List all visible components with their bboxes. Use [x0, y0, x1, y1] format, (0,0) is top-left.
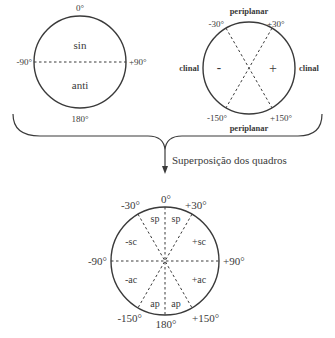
d3-angle-minus90: -90°: [88, 255, 107, 267]
region-sc-plus: +sc: [192, 236, 207, 247]
d3-angle-plus150: +150°: [192, 312, 219, 324]
d2-angle-plus30: +30°: [267, 19, 285, 29]
periplanar-clinal-diagram: periplanar periplanar clinal clinal - + …: [179, 6, 319, 133]
d3-angle-180: 180°: [156, 318, 177, 330]
combined-diagram: 0° -30° +30° -90° +90° -150° +150° 180° …: [88, 193, 245, 330]
region-sp-left: sp: [151, 213, 160, 224]
d1-angle-right: +90°: [129, 57, 147, 67]
plus-sign: +: [269, 61, 277, 76]
d2-angle-plus150: +150°: [270, 113, 293, 123]
periplanar-top-label: periplanar: [230, 6, 269, 16]
d3-angle-0: 0°: [161, 193, 171, 205]
region-ac-plus: +ac: [192, 274, 207, 285]
anti-label: anti: [72, 79, 89, 91]
d3-angle-minus150: -150°: [117, 312, 142, 324]
down-arrow: [162, 150, 168, 174]
region-ac-minus: -ac: [125, 274, 138, 285]
d3-angle-minus30: -30°: [121, 199, 140, 211]
region-ap-left: ap: [150, 298, 159, 309]
d3-angle-plus30: +30°: [185, 199, 207, 211]
region-ap-right: ap: [171, 298, 180, 309]
region-sp-right: sp: [172, 213, 181, 224]
d1-angle-bottom: 180°: [71, 114, 89, 124]
clinal-right-label: clinal: [299, 63, 319, 73]
syn-anti-diagram: 0° -90° +90° 180° sin anti: [16, 3, 147, 124]
d1-angle-top: 0°: [76, 3, 85, 13]
conformation-diagram: 0° -90° +90° 180° sin anti periplanar pe…: [0, 0, 335, 338]
region-sc-minus: -sc: [125, 236, 137, 247]
d2-angle-minus150: -150°: [207, 113, 227, 123]
superposition-label: Superposição dos quadros: [172, 154, 287, 166]
diagonal-divider-2: [226, 28, 272, 108]
sin-label: sin: [74, 39, 87, 51]
d3-angle-plus90: +90°: [223, 255, 245, 267]
d1-angle-left: -90°: [16, 57, 32, 67]
periplanar-bottom-label: periplanar: [230, 123, 269, 133]
minus-sign: -: [217, 60, 221, 75]
d2-angle-minus30: -30°: [208, 19, 224, 29]
clinal-left-label: clinal: [179, 63, 199, 73]
